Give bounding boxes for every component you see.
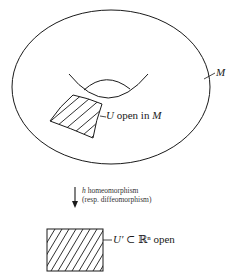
map-label: h homeomorphism (resp. diffeomorphism) — [82, 186, 151, 204]
open-set-u-patch — [35, 84, 120, 167]
chart-set-label: U′ ⊂ ℝⁿ open — [113, 233, 175, 246]
euclidean-space: ℝⁿ — [138, 233, 151, 245]
down-arrow-icon — [72, 187, 78, 208]
open-set-space: M — [152, 109, 161, 121]
torus-hole-lower-arc — [84, 80, 130, 90]
chart-set-u-prime-rect — [30, 229, 125, 271]
map-label-line2: (resp. diffeomorphism) — [82, 195, 151, 204]
open-set-text: open in — [114, 109, 152, 121]
open-set-label: U open in M — [106, 109, 161, 121]
map-label-line1: h homeomorphism — [82, 186, 151, 195]
torus-hole-upper-arc — [69, 74, 148, 98]
torus-outer-outline — [12, 10, 210, 164]
map-type: homeomorphism — [86, 186, 139, 195]
manifold-label: M — [216, 66, 225, 78]
chart-set-text: open — [151, 233, 175, 245]
subset-symbol: ⊂ — [123, 233, 138, 245]
chart-set-var: U′ — [113, 233, 123, 245]
open-set-var: U — [106, 109, 114, 121]
